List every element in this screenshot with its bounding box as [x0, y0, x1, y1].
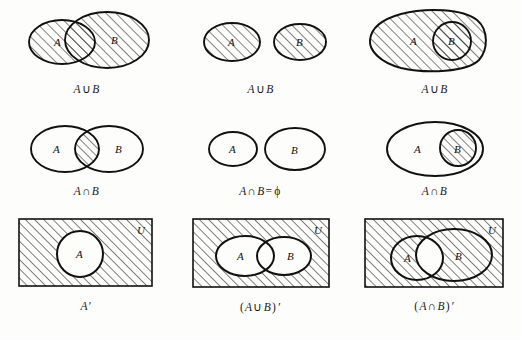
panel-complement-intersection: A B U (A∩B)′ — [348, 211, 521, 312]
panel-caption: A∪B — [348, 82, 521, 96]
set-a-label: A — [413, 143, 421, 155]
panel-caption: A∪B — [174, 82, 347, 96]
set-a-label: A — [228, 143, 236, 155]
set-b-label: B — [455, 250, 462, 262]
universe-label: U — [137, 224, 146, 236]
panel-caption: A∩B — [348, 185, 521, 197]
set-a-label: A — [409, 35, 417, 47]
venn-art-union-subset: A B — [355, 4, 515, 76]
venn-art-intersection-empty: A B — [181, 118, 341, 180]
venn-art-complement-a: A U — [7, 211, 167, 293]
set-b-label: B — [454, 143, 461, 155]
set-b-label: B — [448, 35, 455, 47]
panel-caption: (A∪B)′ — [174, 300, 347, 314]
set-b-label: B — [287, 250, 294, 262]
venn-art-intersection-subset: A B — [355, 118, 515, 180]
venn-figure-grid: A B A∪B A B A∪B — [0, 0, 521, 340]
panel-caption: A∩B — [0, 185, 173, 197]
panel-intersection-subset: A B A∩B — [348, 118, 521, 197]
panel-union-disjoint: A B A∪B — [174, 4, 347, 96]
panel-complement-a: A U A′ — [0, 211, 173, 312]
panel-intersection-overlapping: A B A∩B — [0, 118, 173, 197]
set-a-label: A — [75, 248, 83, 260]
universe-label: U — [488, 224, 497, 236]
panel-intersection-empty: A B A∩B=ϕ — [174, 118, 347, 197]
panel-caption: (A∩B)′ — [348, 300, 521, 312]
venn-art-complement-intersection: A B U — [355, 211, 515, 293]
set-a-label: A — [227, 36, 235, 48]
set-a-label: A — [403, 252, 411, 264]
panel-caption: A∪B — [0, 82, 173, 96]
panel-union-overlapping: A B A∪B — [0, 4, 173, 96]
venn-art-intersection-overlapping: A B — [7, 118, 167, 180]
set-a-label: A — [236, 250, 244, 262]
universe-label: U — [314, 224, 323, 236]
panel-union-subset: A B A∪B — [348, 4, 521, 96]
set-b-label: B — [296, 36, 303, 48]
set-b-label: B — [115, 143, 122, 155]
set-b-label: B — [111, 34, 118, 46]
panel-caption: A′ — [0, 300, 173, 312]
set-b-label: B — [291, 144, 298, 156]
panel-complement-union: A B U (A∪B)′ — [174, 211, 347, 314]
set-a-label: A — [52, 143, 60, 155]
panel-caption: A∩B=ϕ — [174, 185, 347, 197]
set-a-label: A — [53, 36, 61, 48]
venn-art-union-disjoint: A B — [181, 4, 341, 76]
venn-art-complement-union: A B U — [181, 211, 341, 293]
venn-art-union-overlapping: A B — [7, 4, 167, 76]
